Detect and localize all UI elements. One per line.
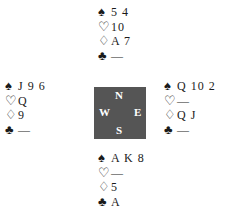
spade-icon: ♠: [164, 79, 177, 94]
heart-icon: ♡: [164, 94, 177, 109]
diamond-icon: ♢: [98, 180, 111, 195]
heart-icon: ♡: [98, 166, 111, 181]
east-spades-row: ♠ Q 10 2: [164, 79, 216, 94]
west-clubs-cards: —: [18, 123, 31, 138]
north-diamonds-row: ♢ A 7: [98, 34, 131, 49]
compass-north-label: N: [115, 89, 123, 101]
north-spades-cards: 5 4: [111, 5, 129, 20]
south-spades-cards: A K 8: [111, 151, 145, 166]
heart-icon: ♡: [98, 20, 111, 35]
south-diamonds-cards: 5: [111, 180, 118, 195]
east-spades-cards: Q 10 2: [177, 79, 216, 94]
west-hearts-cards: Q: [18, 94, 28, 109]
west-diamonds-row: ♢ 9: [5, 108, 46, 123]
east-diamonds-cards: Q J: [177, 108, 196, 123]
south-hearts-cards: —: [111, 166, 124, 181]
east-hand: ♠ Q 10 2 ♡ — ♢ Q J ♣ —: [164, 79, 216, 137]
west-hand: ♠ J 9 6 ♡ Q ♢ 9 ♣ —: [5, 79, 46, 137]
spade-icon: ♠: [5, 79, 18, 94]
diamond-icon: ♢: [98, 34, 111, 49]
heart-icon: ♡: [5, 94, 18, 109]
compass-box: N W E S: [94, 87, 146, 139]
west-spades-row: ♠ J 9 6: [5, 79, 46, 94]
south-diamonds-row: ♢ 5: [98, 180, 145, 195]
club-icon: ♣: [164, 123, 177, 138]
west-diamonds-cards: 9: [18, 108, 25, 123]
north-hand: ♠ 5 4 ♡ 10 ♢ A 7 ♣ —: [98, 5, 131, 63]
compass-west-label: W: [99, 106, 110, 118]
east-clubs-cards: —: [177, 123, 190, 138]
south-spades-row: ♠ A K 8: [98, 151, 145, 166]
south-hand: ♠ A K 8 ♡ — ♢ 5 ♣ A: [98, 151, 145, 209]
west-clubs-row: ♣ —: [5, 123, 46, 138]
north-hearts-cards: 10: [111, 20, 125, 35]
spade-icon: ♠: [98, 151, 111, 166]
west-spades-cards: J 9 6: [18, 79, 46, 94]
east-clubs-row: ♣ —: [164, 123, 216, 138]
spade-icon: ♠: [98, 5, 111, 20]
diamond-icon: ♢: [164, 108, 177, 123]
north-hearts-row: ♡ 10: [98, 20, 131, 35]
compass-south-label: S: [116, 124, 122, 136]
compass-east-label: E: [134, 106, 141, 118]
west-hearts-row: ♡ Q: [5, 94, 46, 109]
club-icon: ♣: [98, 195, 111, 210]
south-hearts-row: ♡ —: [98, 166, 145, 181]
north-clubs-row: ♣ —: [98, 49, 131, 64]
club-icon: ♣: [5, 123, 18, 138]
diamond-icon: ♢: [5, 108, 18, 123]
east-hearts-cards: —: [177, 94, 190, 109]
east-hearts-row: ♡ —: [164, 94, 216, 109]
south-clubs-row: ♣ A: [98, 195, 145, 210]
north-clubs-cards: —: [111, 49, 124, 64]
east-diamonds-row: ♢ Q J: [164, 108, 216, 123]
club-icon: ♣: [98, 49, 111, 64]
north-spades-row: ♠ 5 4: [98, 5, 131, 20]
south-clubs-cards: A: [111, 195, 121, 210]
north-diamonds-cards: A 7: [111, 34, 131, 49]
